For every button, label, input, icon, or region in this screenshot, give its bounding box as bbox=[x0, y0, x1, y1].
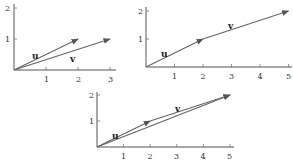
panel-1: 1 2 3 1 2 u v bbox=[5, 4, 116, 84]
vector-v bbox=[14, 39, 110, 70]
vector-u-label: u bbox=[112, 131, 119, 141]
x-tick-label: 1 bbox=[121, 152, 126, 161]
vector-u bbox=[97, 121, 150, 147]
y-tick-label: 2 bbox=[89, 91, 94, 100]
x-tick-label: 2 bbox=[148, 152, 153, 161]
vector-u-label: u bbox=[32, 51, 39, 61]
vector-v-label: v bbox=[227, 21, 234, 31]
vector-v bbox=[150, 95, 230, 121]
panel-3: 1 2 3 4 5 1 2 u v bbox=[89, 91, 234, 161]
x-tick-label: 3 bbox=[229, 72, 234, 81]
vector-v-label: v bbox=[69, 54, 76, 64]
vector-u bbox=[14, 39, 78, 70]
y-tick-label: 1 bbox=[89, 117, 94, 126]
vector-u-label: u bbox=[161, 49, 168, 59]
x-tick-label: 3 bbox=[174, 152, 179, 161]
vector-u bbox=[146, 39, 203, 67]
vector-v bbox=[203, 11, 289, 39]
vector-v-label: v bbox=[174, 104, 181, 114]
y-tick-label: 1 bbox=[5, 35, 10, 44]
y-tick-label: 1 bbox=[138, 35, 143, 44]
vector-addition-diagram: 1 2 3 1 2 u v 1 2 3 4 5 1 2 u v bbox=[0, 0, 293, 167]
x-tick-label: 2 bbox=[76, 75, 81, 84]
y-tick-label: 2 bbox=[5, 4, 10, 13]
x-tick-label: 3 bbox=[108, 75, 113, 84]
x-tick-label: 5 bbox=[286, 72, 291, 81]
x-tick-label: 4 bbox=[258, 72, 263, 81]
x-tick-label: 5 bbox=[227, 152, 232, 161]
x-tick-label: 1 bbox=[44, 75, 49, 84]
y-tick-label: 2 bbox=[138, 7, 143, 16]
x-tick-label: 2 bbox=[201, 72, 206, 81]
x-tick-label: 1 bbox=[172, 72, 177, 81]
x-tick-label: 4 bbox=[201, 152, 206, 161]
panel-2: 1 2 3 4 5 1 2 u v bbox=[138, 7, 292, 81]
